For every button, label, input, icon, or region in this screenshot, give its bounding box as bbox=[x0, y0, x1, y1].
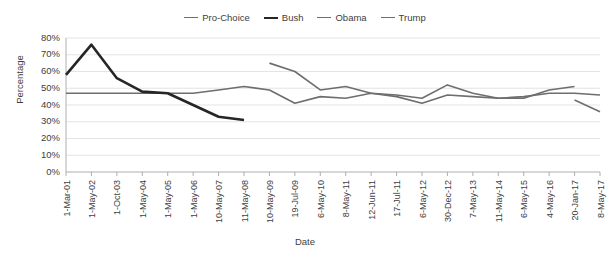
y-tick-label: 40% bbox=[41, 99, 61, 110]
x-tick-label: 1-Oct-03 bbox=[112, 180, 122, 215]
x-tick-label: 10-May-07 bbox=[214, 180, 224, 223]
series-line-bush bbox=[66, 45, 244, 120]
x-tick-label: 6-May-10 bbox=[316, 180, 326, 218]
y-tick-label: 60% bbox=[41, 65, 61, 76]
x-tick-label: 10-May-09 bbox=[265, 180, 275, 223]
plot-svg: 0%10%20%30%40%50%60%70%80%1-Mar-011-May-… bbox=[0, 0, 610, 259]
x-tick-label: 4-May-16 bbox=[545, 180, 555, 218]
y-tick-label: 20% bbox=[41, 132, 61, 143]
y-tick-label: 10% bbox=[41, 149, 61, 160]
x-tick-label: 1-May-02 bbox=[87, 180, 97, 218]
x-tick-label: 30-Dec-12 bbox=[443, 180, 453, 222]
x-tick-label: 11-May-14 bbox=[494, 180, 504, 222]
x-tick-label: 7-May-13 bbox=[468, 180, 478, 218]
series-line-pro-choice bbox=[66, 87, 600, 104]
x-tick-label: 12-Jun-11 bbox=[367, 180, 377, 220]
y-tick-label: 70% bbox=[41, 48, 61, 59]
series-line-trump bbox=[575, 100, 600, 112]
x-tick-label: 19-Jul-09 bbox=[290, 180, 300, 218]
y-tick-label: 0% bbox=[46, 166, 60, 177]
x-tick-label: 8-May-11 bbox=[341, 180, 351, 217]
x-tick-label: 6-May-12 bbox=[418, 180, 428, 218]
x-tick-label: 1-May-05 bbox=[163, 180, 173, 218]
x-tick-label: 17-Jul-11 bbox=[392, 180, 402, 217]
x-tick-label: 8-May-17 bbox=[596, 180, 606, 218]
plot-area: 0%10%20%30%40%50%60%70%80%1-Mar-011-May-… bbox=[0, 0, 610, 259]
x-tick-label: 1-May-04 bbox=[138, 180, 148, 218]
y-tick-label: 80% bbox=[41, 32, 61, 43]
x-tick-label: 11-May-08 bbox=[240, 180, 250, 222]
series-line-obama bbox=[269, 63, 574, 98]
x-tick-label: 1-Mar-01 bbox=[62, 180, 72, 217]
y-tick-label: 30% bbox=[41, 115, 61, 126]
y-tick-label: 50% bbox=[41, 82, 61, 93]
line-chart: Pro-ChoiceBushObamaTrump Percentage Date… bbox=[0, 0, 610, 259]
x-tick-label: 6-May-15 bbox=[519, 180, 529, 218]
x-tick-label: 20-Jan-17 bbox=[570, 180, 580, 221]
x-tick-label: 1-May-06 bbox=[189, 180, 199, 218]
